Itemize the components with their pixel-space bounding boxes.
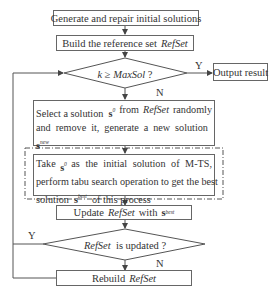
text: as the initial solution of M-TS, — [71, 157, 212, 175]
text: Select a solution — [36, 108, 103, 119]
text: perform tabu search operation to get the… — [36, 176, 218, 187]
text: solution — [36, 194, 69, 205]
generate-solutions-box: Generate and repair initial solutions — [53, 10, 199, 26]
no-label-k: N — [156, 87, 164, 98]
tabu-search-box: Take s0 as the initial solution of M-TS,… — [33, 154, 215, 196]
text: from — [119, 103, 139, 121]
sup: 0 — [64, 161, 67, 167]
decision-updated-text: RefSet is updated ? — [84, 240, 166, 251]
decision-k-text: k ≥ MaxSol ? — [97, 69, 152, 80]
build-label: Build the reference set — [62, 37, 157, 50]
tabu-line-2: perform tabu search operation to get the… — [36, 175, 212, 189]
text: randomly — [173, 103, 212, 121]
text: of this process — [92, 194, 151, 205]
output-label: Output result — [213, 66, 268, 79]
no-label-updated: N — [156, 258, 164, 269]
rebuild-refset-box: RebuildRefSet — [56, 270, 192, 286]
text: Take — [36, 157, 56, 175]
sup: best — [78, 193, 87, 199]
text: is updated ? — [116, 240, 166, 251]
sup: new — [40, 139, 49, 145]
update-refset-box: UpdateRefSetwithsbest — [56, 205, 192, 220]
select-line-2: and remove it, generate a new solution s… — [36, 121, 212, 153]
k-var: k — [97, 69, 102, 80]
refset-term: RefSet — [161, 37, 188, 50]
geq-op: ≥ — [105, 69, 111, 80]
refset-term: RefSet — [108, 206, 135, 219]
text: with — [139, 206, 158, 219]
yes-label-k: Y — [195, 60, 203, 71]
build-refset-box: Build the reference setRefSet — [56, 35, 194, 51]
maxsol-var: MaxSol — [113, 69, 145, 80]
generate-label: Generate and repair initial solutions — [51, 12, 201, 25]
text: and remove it, generate a new solution — [36, 122, 208, 133]
select-line-1: Select a solution s0 from RefSet randoml… — [36, 103, 212, 121]
yes-label-updated: Y — [28, 230, 36, 241]
tabu-line-1: Take s0 as the initial solution of M-TS, — [36, 157, 212, 175]
sup: best — [166, 206, 175, 219]
text: Update — [74, 206, 104, 219]
refset-term: RefSet — [84, 240, 111, 251]
refset-term: RefSet — [129, 272, 156, 285]
refset-term: RefSet — [143, 103, 169, 121]
sup: 0 — [112, 107, 115, 113]
output-result-box: Output result — [213, 63, 268, 81]
question-mark: ? — [148, 69, 153, 80]
text: Rebuild — [92, 272, 125, 285]
select-solution-box: Select a solution s0 from RefSet randoml… — [33, 100, 215, 146]
